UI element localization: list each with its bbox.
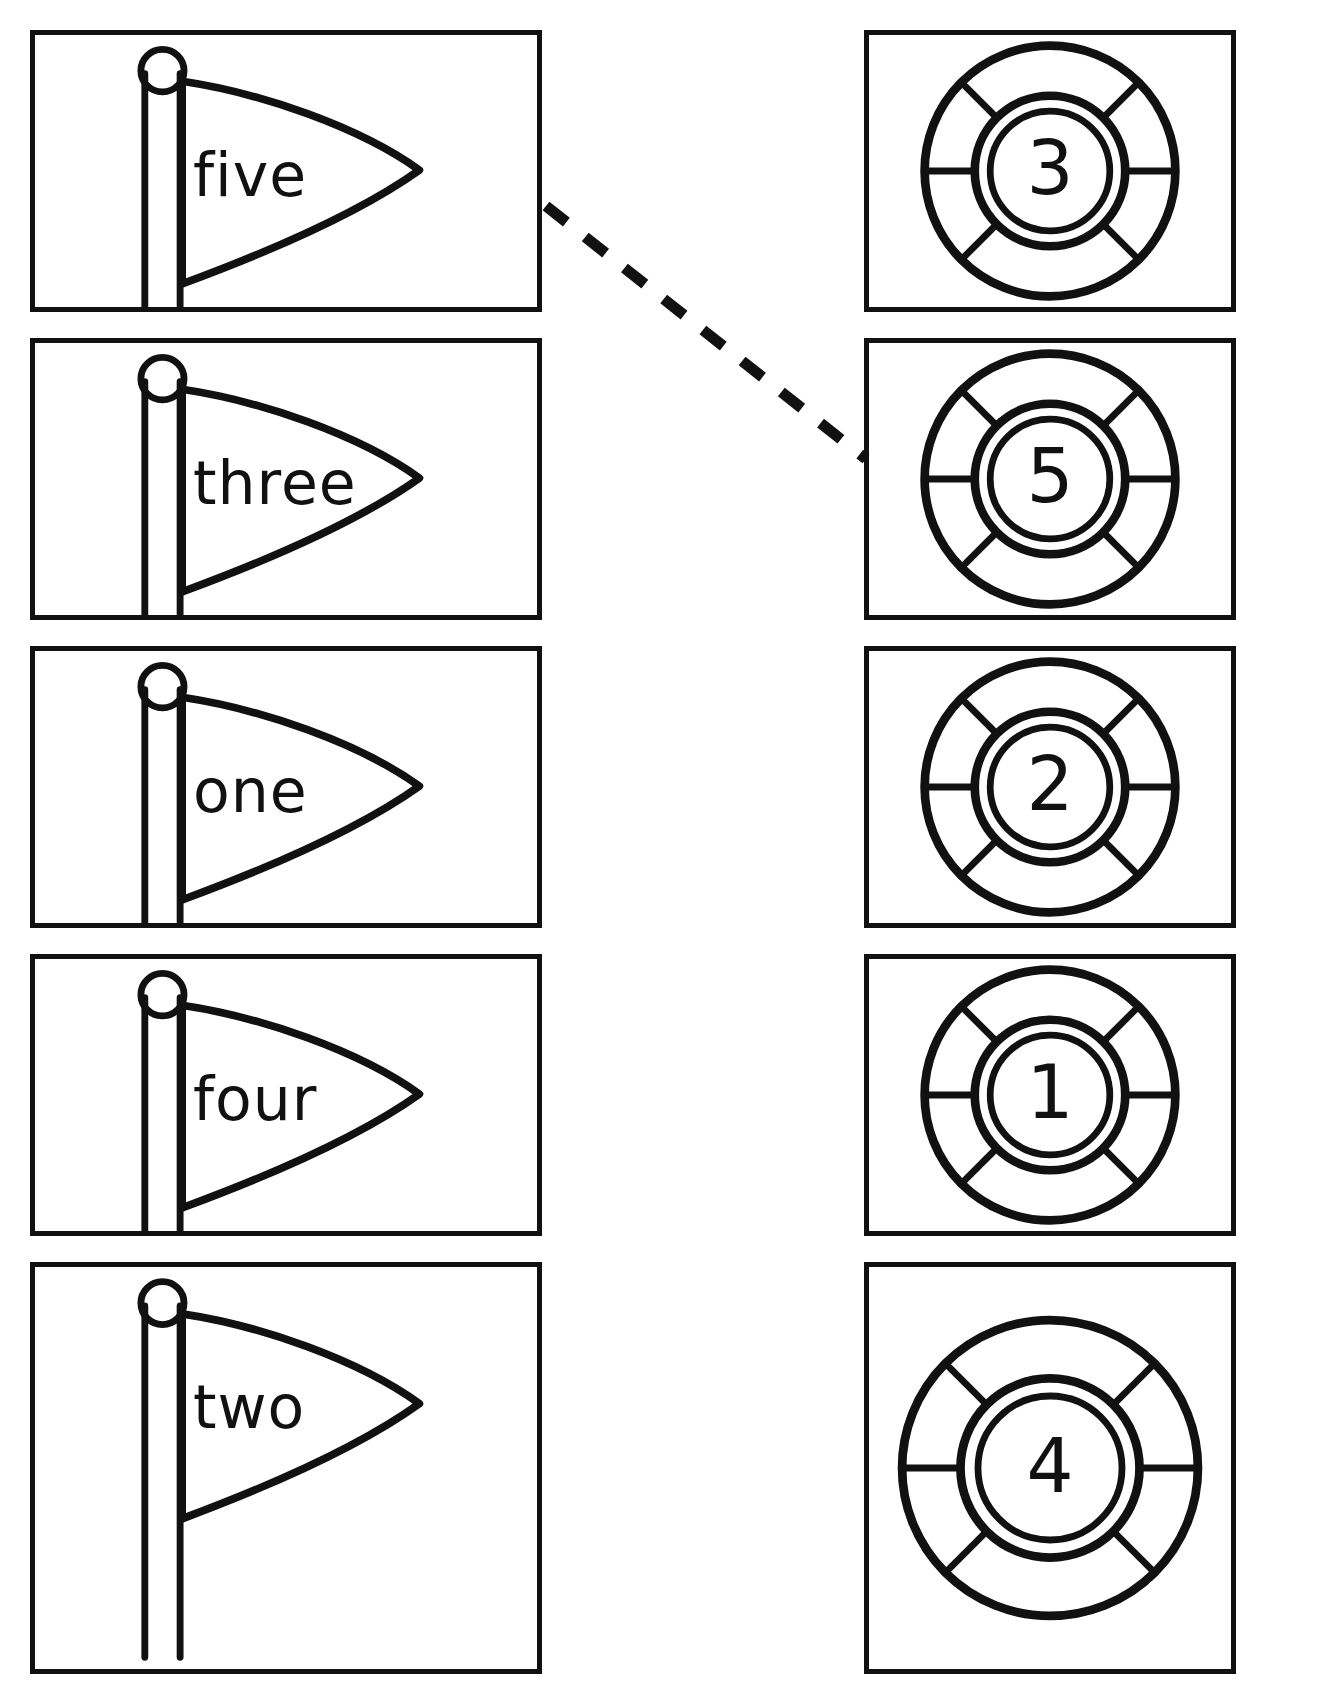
word-label: one — [193, 761, 308, 821]
numeral-card-1[interactable]: 1 — [864, 954, 1236, 1236]
numeral-card-4[interactable]: 4 — [864, 1262, 1236, 1674]
word-label: five — [193, 145, 307, 205]
numeral-label: 4 — [869, 1429, 1231, 1503]
pennant-flag-icon — [35, 1267, 537, 1669]
numeral-card-3[interactable]: 3 — [864, 30, 1236, 312]
match-line-five-to-5 — [546, 206, 866, 459]
worksheet-page: five three one — [0, 0, 1344, 1702]
numeral-label: 3 — [869, 131, 1231, 205]
word-card-three[interactable]: three — [30, 338, 542, 620]
numeral-card-2[interactable]: 2 — [864, 646, 1236, 928]
word-label: three — [193, 453, 357, 513]
numeral-label: 5 — [869, 439, 1231, 513]
word-label: two — [193, 1377, 305, 1437]
numeral-card-5[interactable]: 5 — [864, 338, 1236, 620]
word-label: four — [193, 1069, 318, 1129]
word-card-five[interactable]: five — [30, 30, 542, 312]
word-card-one[interactable]: one — [30, 646, 542, 928]
numeral-label: 2 — [869, 747, 1231, 821]
word-card-two[interactable]: two — [30, 1262, 542, 1674]
word-card-four[interactable]: four — [30, 954, 542, 1236]
numeral-label: 1 — [869, 1055, 1231, 1129]
